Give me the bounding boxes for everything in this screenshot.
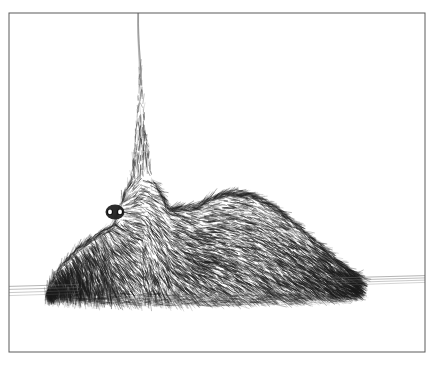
paper-background (0, 0, 432, 365)
left-eye-highlight (108, 210, 112, 215)
eyes-group (106, 205, 125, 220)
creature-illustration (0, 0, 432, 365)
right-eye-highlight (118, 210, 122, 215)
artwork-canvas (0, 0, 432, 365)
